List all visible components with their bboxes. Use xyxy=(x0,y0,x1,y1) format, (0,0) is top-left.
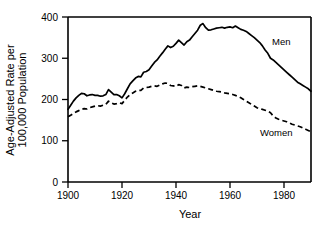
series-annotation-men: Men xyxy=(272,36,290,47)
x-axis-tick-labels: 1900 1920 1940 1960 1980 xyxy=(57,190,296,201)
series-annotation-women: Women xyxy=(260,127,293,138)
y-tick-label-200: 200 xyxy=(41,94,58,105)
x-tick-label-1980: 1980 xyxy=(273,190,296,201)
y-axis-ticks xyxy=(62,17,68,182)
y-axis-title-line1: Age-Adjusted Rate per xyxy=(4,44,16,156)
y-tick-label-300: 300 xyxy=(41,53,58,64)
x-tick-label-1900: 1900 xyxy=(57,190,80,201)
x-tick-label-1920: 1920 xyxy=(111,190,134,201)
y-tick-label-400: 400 xyxy=(41,12,58,23)
y-axis-title-line2: 100,000 Population xyxy=(16,53,28,148)
y-tick-label-0: 0 xyxy=(52,177,58,188)
y-tick-label-100: 100 xyxy=(41,135,58,146)
y-axis-title: Age-Adjusted Rate per 100,000 Population xyxy=(4,44,28,156)
x-axis-title: Year xyxy=(179,208,202,220)
x-axis-ticks xyxy=(68,182,284,188)
x-tick-label-1940: 1940 xyxy=(165,190,188,201)
series-line-women xyxy=(68,83,311,132)
x-tick-label-1960: 1960 xyxy=(219,190,242,201)
line-chart: 0 100 200 300 400 1900 1920 1940 1960 19… xyxy=(0,0,326,227)
chart-figure: 0 100 200 300 400 1900 1920 1940 1960 19… xyxy=(0,0,326,227)
y-axis-tick-labels: 0 100 200 300 400 xyxy=(41,12,58,188)
